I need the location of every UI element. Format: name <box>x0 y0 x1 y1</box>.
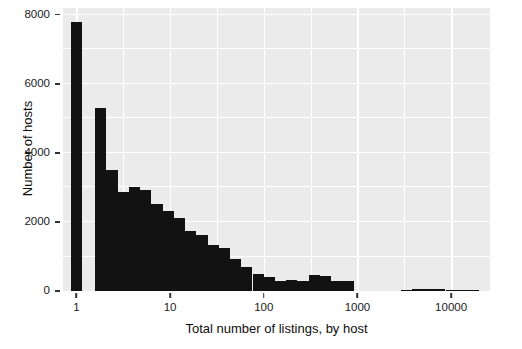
histogram-bar <box>412 289 423 291</box>
gridline-horizontal-major <box>63 83 490 84</box>
gridline-horizontal-minor <box>63 48 490 49</box>
histogram-bar <box>185 231 196 291</box>
gridline-vertical-major <box>264 8 265 291</box>
histogram-bar <box>434 289 445 291</box>
gridline-vertical-major <box>451 8 452 291</box>
y-axis-tick-label: 8000 <box>2 9 50 21</box>
histogram-bar <box>241 267 252 291</box>
y-axis-tick-mark <box>55 83 60 85</box>
histogram-bar <box>118 192 129 291</box>
histogram-bar <box>174 218 185 291</box>
x-axis-tick-label: 100 <box>254 302 273 314</box>
histogram-bar <box>151 204 162 291</box>
gridline-horizontal-minor <box>63 186 490 187</box>
histogram-bar <box>253 274 264 291</box>
histogram-bar <box>342 281 353 291</box>
y-axis-tick-mark <box>55 152 60 154</box>
y-axis-tick-mark <box>55 14 60 16</box>
histogram-bar <box>286 280 297 291</box>
histogram-bar <box>320 276 331 291</box>
y-axis-tick-mark <box>55 290 60 292</box>
x-axis-tick-mark <box>450 293 452 298</box>
histogram-bar <box>468 290 479 291</box>
gridline-vertical-major <box>357 8 358 291</box>
x-axis-tick-mark <box>169 293 171 298</box>
histogram-bar <box>129 187 140 291</box>
histogram-bar <box>275 281 286 291</box>
gridline-vertical-minor <box>404 8 405 291</box>
plot-panel <box>63 8 490 291</box>
y-axis-tick-label: 2000 <box>2 216 50 228</box>
histogram-bar <box>71 22 82 291</box>
gridline-horizontal-major <box>63 14 490 15</box>
histogram-bar <box>401 290 412 291</box>
x-axis-tick-label: 1000 <box>345 302 371 314</box>
x-axis-tick-mark <box>357 293 359 298</box>
gridline-horizontal-minor <box>63 117 490 118</box>
histogram-bar <box>163 211 174 291</box>
x-axis-tick-mark <box>263 293 265 298</box>
histogram-bar <box>331 281 342 291</box>
histogram-bar <box>140 190 151 291</box>
x-axis-tick-label: 10000 <box>435 302 467 314</box>
y-axis-tick-label: 6000 <box>2 78 50 90</box>
histogram-bar <box>309 275 320 291</box>
histogram-bar <box>208 245 219 291</box>
x-axis-tick-label: 10 <box>164 302 177 314</box>
x-axis-title: Total number of listings, by host <box>63 322 490 335</box>
histogram-figure: Number of hosts 02000400060008000 Total … <box>0 0 522 349</box>
y-axis-tick-mark <box>55 221 60 223</box>
histogram-bar <box>457 290 468 291</box>
histogram-bar <box>423 289 434 291</box>
y-axis-tick-labels: 02000400060008000 <box>0 0 50 349</box>
histogram-bar <box>106 170 117 291</box>
histogram-bar <box>196 235 207 291</box>
gridline-vertical-minor <box>311 8 312 291</box>
gridline-horizontal-major <box>63 152 490 153</box>
histogram-bar <box>446 290 457 291</box>
x-axis-tick-mark <box>76 293 78 298</box>
y-axis-tick-label: 0 <box>2 285 50 297</box>
x-axis-tick-label: 1 <box>73 302 79 314</box>
histogram-bar <box>219 248 230 291</box>
histogram-bar <box>230 259 241 291</box>
histogram-bar <box>95 108 106 291</box>
histogram-bar <box>297 281 308 291</box>
y-axis-tick-label: 4000 <box>2 147 50 159</box>
histogram-bar <box>264 277 275 291</box>
